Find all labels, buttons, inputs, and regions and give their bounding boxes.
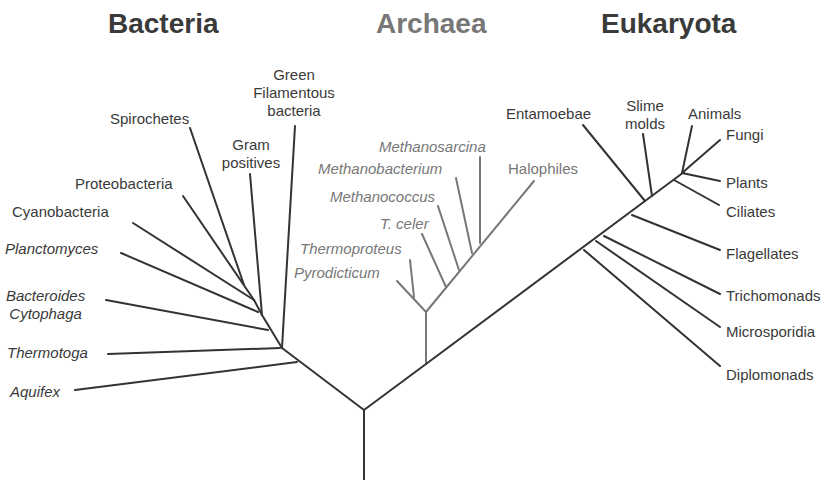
taxon-label-green-filamentous-bacteria: GreenFilamentousbacteria	[253, 66, 335, 120]
taxon-label-methanosarcina: Methanosarcina	[379, 138, 486, 156]
taxon-label-proteobacteria: Proteobacteria	[75, 175, 173, 193]
branch-green-filamentous	[282, 126, 295, 348]
taxon-label-entamoebae: Entamoebae	[506, 105, 591, 123]
taxon-label-methanobacterium: Methanobacterium	[318, 160, 442, 178]
branch-methanobacterium	[456, 178, 472, 253]
taxon-label-slime-molds: Slimemolds	[625, 97, 665, 133]
branch-bacteria-inner-1	[262, 315, 282, 348]
branch-methanococcus	[438, 206, 459, 270]
branch-diplomonads	[584, 250, 720, 366]
taxon-label-pyrodicticum: Pyrodicticum	[294, 264, 380, 282]
taxon-label-plants: Plants	[726, 174, 768, 192]
branch-bacteria-stem	[282, 348, 364, 410]
branch-bacteroides	[106, 300, 268, 330]
taxon-label-cyanobacteria: Cyanobacteria	[12, 203, 109, 221]
taxon-label-microsporidia: Microsporidia	[726, 323, 815, 341]
domain-title-archaea: Archaea	[376, 8, 487, 40]
taxon-label-fungi: Fungi	[726, 126, 764, 144]
domain-title-eukaryota: Eukaryota	[601, 8, 736, 40]
branch-slime-molds	[643, 134, 652, 196]
taxon-label-methanococcus: Methanococcus	[330, 188, 435, 206]
branch-aquifex	[75, 362, 297, 390]
taxon-label-gram-positives: Grampositives	[222, 136, 280, 172]
branch-ciliates	[674, 180, 719, 205]
taxon-label-t-celer: T. celer	[380, 215, 429, 233]
branch-entamoebae	[583, 125, 645, 201]
taxon-label-diplomonads: Diplomonads	[726, 366, 814, 384]
domain-title-bacteria: Bacteria	[108, 8, 219, 40]
taxon-label-aquifex: Aquifex	[10, 383, 60, 401]
taxon-label-bacteroides-cytophaga: BacteroidesCytophaga	[6, 287, 85, 323]
branch-trichomonads	[604, 236, 720, 294]
taxon-label-ciliates: Ciliates	[726, 203, 775, 221]
branch-pyrodicticum	[397, 281, 426, 312]
taxon-label-spirochetes: Spirochetes	[110, 110, 189, 128]
taxon-label-flagellates: Flagellates	[726, 245, 799, 263]
branch-thermotoga	[108, 348, 280, 354]
taxon-label-halophiles: Halophiles	[508, 160, 578, 178]
branch-thermoproteus	[410, 260, 414, 297]
branch-gram-positives	[250, 174, 262, 315]
taxon-label-thermoproteus: Thermoproteus	[300, 240, 402, 258]
phylogenetic-tree	[0, 0, 840, 480]
branch-flagellates	[632, 215, 720, 250]
taxon-label-planctomyces: Planctomyces	[5, 240, 98, 258]
taxon-label-animals: Animals	[688, 105, 741, 123]
taxon-label-thermotoga: Thermotoga	[7, 344, 88, 362]
taxon-label-trichomonads: Trichomonads	[726, 287, 820, 305]
branch-plants	[682, 173, 720, 181]
branch-planctomyces	[121, 253, 258, 312]
branch-archaea-euk-stem	[364, 364, 426, 410]
branch-t-celer	[422, 234, 446, 287]
